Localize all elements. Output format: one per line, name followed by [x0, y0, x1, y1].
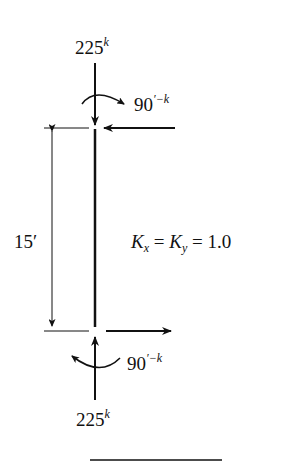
- top-axial-load-value: 225: [75, 37, 104, 58]
- length-label: 15′: [14, 232, 37, 251]
- column-diagram: 225k 90′−k 15′ Kx = Ky = 1.0 90′−k 225k: [0, 0, 299, 463]
- ky-subscript: y: [182, 241, 187, 255]
- kx-symbol: K: [131, 231, 144, 252]
- factor-value: = 1.0: [187, 231, 231, 252]
- bottom-axial-load-label: 225k: [76, 410, 110, 429]
- top-axial-load-label: 225k: [75, 38, 109, 57]
- kx-subscript: x: [144, 241, 149, 255]
- top-moment-label: 90′−k: [134, 95, 169, 114]
- bottom-axial-load-unit: k: [105, 407, 110, 421]
- top-moment-unit: ′−k: [153, 92, 169, 106]
- top-moment-value: 90: [134, 94, 153, 115]
- top-axial-load-unit: k: [104, 35, 109, 49]
- ky-symbol: K: [169, 231, 182, 252]
- bottom-moment-label: 90′−k: [127, 354, 162, 373]
- bottom-moment-unit: ′−k: [146, 351, 162, 365]
- length-value: 15′: [14, 231, 37, 252]
- effective-length-factor-label: Kx = Ky = 1.0: [131, 232, 231, 251]
- top-moment-arrow: [82, 95, 124, 104]
- equals-sign: =: [149, 231, 169, 252]
- bottom-moment-value: 90: [127, 353, 146, 374]
- bottom-axial-load-value: 225: [76, 409, 105, 430]
